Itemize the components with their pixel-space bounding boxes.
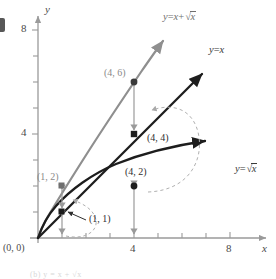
marker-point-1-2: [59, 183, 65, 189]
y-axis-label: y: [45, 4, 50, 15]
y-tick-label-4: 4: [21, 127, 27, 138]
y-tick-label-8: 8: [21, 23, 27, 34]
x-axis: [30, 232, 266, 238]
leader-line-p11: [68, 212, 86, 220]
point-label-4-2: (4, 2): [125, 167, 147, 177]
marker-point-1-1: [59, 209, 65, 215]
curve-label-identity: y=x: [209, 45, 224, 56]
x-axis-label: x: [262, 243, 267, 254]
point-label-4-6: (4, 6): [104, 68, 126, 78]
point-label-1-2: (1, 2): [37, 172, 59, 182]
marker-point-4-2: [131, 183, 138, 190]
curve-label-sum: y=x+x: [163, 11, 196, 23]
curve-label-sqrt: y=x: [235, 163, 257, 175]
curve-label-identity-x: x: [220, 44, 225, 55]
point-label-4-4: (4, 4): [147, 133, 169, 143]
origin-label: (0, 0): [3, 243, 25, 253]
x-tick-label-4: 4: [130, 243, 136, 254]
curve-sum: [38, 41, 163, 238]
figure-caption: (b) y = x + √x: [30, 270, 82, 279]
marker-point-4-4: [131, 131, 137, 137]
radical-icon: [184, 12, 191, 23]
x-tick-label-8: 8: [226, 243, 232, 254]
y-axis: [32, 16, 38, 243]
point-label-1-1: (1, 1): [89, 214, 111, 224]
marker-point-4-6: [131, 79, 138, 86]
radical-icon: [246, 164, 253, 175]
